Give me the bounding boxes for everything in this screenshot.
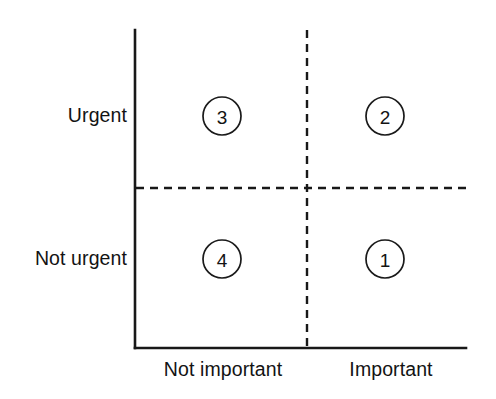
priority-matrix-figure: 3 2 4 1 Urgent Not urgent Not important … bbox=[0, 0, 496, 399]
quadrant-marker-1[interactable]: 1 bbox=[366, 240, 404, 278]
quadrant-marker-number: 1 bbox=[380, 250, 391, 271]
quadrant-marker-2[interactable]: 2 bbox=[366, 97, 404, 135]
quadrant-marker-number: 4 bbox=[217, 250, 228, 271]
x-axis-label-not-important: Not important bbox=[164, 358, 282, 381]
quadrant-marker-4[interactable]: 4 bbox=[203, 240, 241, 278]
quadrant-marker-3[interactable]: 3 bbox=[203, 97, 241, 135]
x-axis-label-important: Important bbox=[349, 358, 432, 381]
y-axis-label-urgent: Urgent bbox=[68, 104, 127, 127]
y-axis-label-not-urgent: Not urgent bbox=[35, 247, 127, 270]
quadrant-marker-number: 3 bbox=[217, 107, 228, 128]
matrix-canvas: 3 2 4 1 bbox=[0, 0, 496, 399]
quadrant-marker-number: 2 bbox=[380, 107, 391, 128]
